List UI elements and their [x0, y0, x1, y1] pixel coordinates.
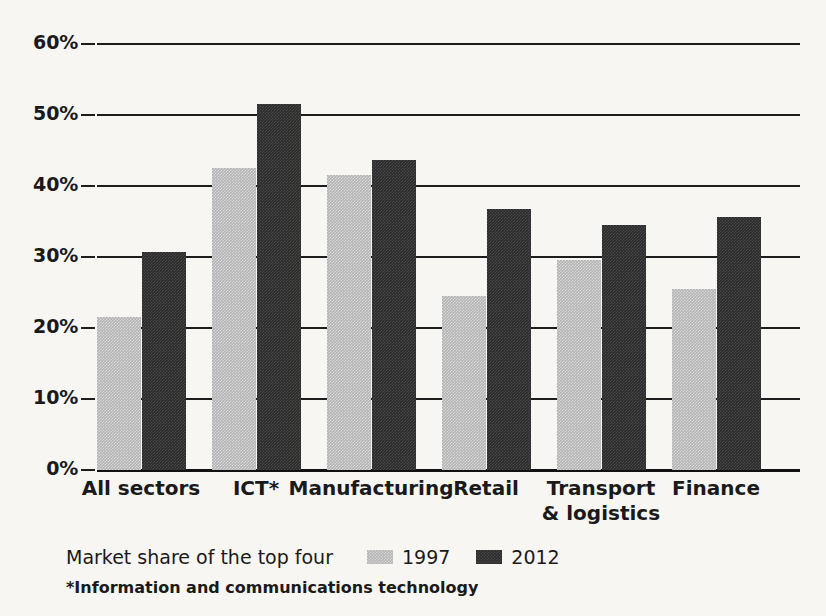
bar-2012 [602, 225, 646, 470]
legend-swatch-2012-icon [476, 550, 502, 564]
y-tick-label-20%: 20% [33, 315, 78, 337]
bar-group [97, 44, 186, 470]
y-tick-mark [81, 469, 95, 471]
category-label-line1: Finance [631, 476, 801, 501]
y-tick-label-60%: 60% [33, 31, 78, 53]
category-label: Finance [631, 476, 801, 501]
bar-1997 [672, 289, 716, 470]
bar-2012 [372, 160, 416, 470]
legend-item-1997: 1997 [367, 546, 450, 568]
bar-2012 [487, 209, 531, 470]
legend-title: Market share of the top four [66, 546, 333, 568]
y-axis-tick-labels: 60%50%40%30%20%10%0% [0, 44, 78, 470]
legend-swatch-1997-icon [367, 550, 393, 564]
legend-label-1997: 1997 [402, 546, 450, 568]
y-tick-label-10%: 10% [33, 386, 78, 408]
bar-1997 [557, 260, 601, 470]
bar-1997 [327, 175, 371, 470]
chart-footnote: *Information and communications technolo… [66, 578, 478, 597]
bar-2012 [142, 252, 186, 470]
legend-label-2012: 2012 [511, 546, 559, 568]
bar-1997 [212, 168, 256, 470]
y-tick-mark [81, 185, 95, 187]
x-axis-category-labels: All sectorsICT*ManufacturingRetailTransp… [97, 476, 800, 536]
category-label-line2: & logistics [516, 501, 686, 526]
y-tick-mark [81, 327, 95, 329]
y-tick-label-30%: 30% [33, 244, 78, 266]
bar-2012 [257, 104, 301, 470]
legend-item-2012: 2012 [476, 546, 559, 568]
bar-group [442, 44, 531, 470]
bar-1997 [97, 317, 141, 470]
y-tick-mark [81, 43, 95, 45]
chart-legend: Market share of the top four 1997 2012 [66, 545, 586, 569]
y-tick-mark [81, 256, 95, 258]
bar-2012 [717, 217, 761, 470]
bar-group [212, 44, 301, 470]
y-tick-label-40%: 40% [33, 173, 78, 195]
y-tick-mark [81, 398, 95, 400]
y-tick-mark [81, 114, 95, 116]
bar-1997 [442, 296, 486, 470]
plot-area [97, 44, 800, 470]
bar-group [327, 44, 416, 470]
y-tick-label-50%: 50% [33, 102, 78, 124]
bar-group [557, 44, 646, 470]
bar-group [672, 44, 761, 470]
bar-chart-figure: 60%50%40%30%20%10%0% All sectorsICT*Manu… [0, 0, 826, 616]
